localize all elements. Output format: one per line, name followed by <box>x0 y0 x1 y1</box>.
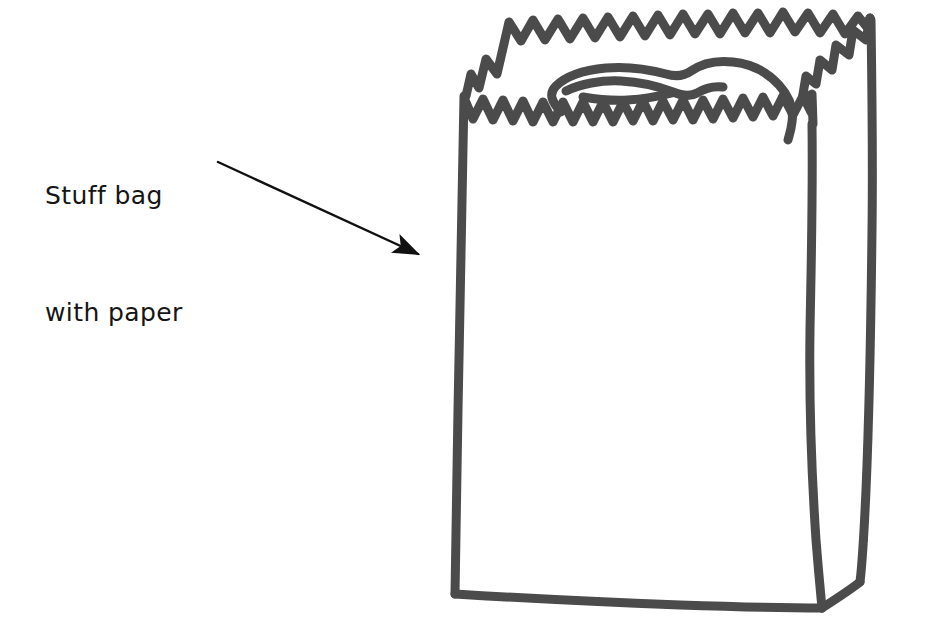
drawing-canvas: Stuff bag with paper <box>0 0 932 628</box>
pointer-arrow <box>218 162 418 254</box>
bag-front-left-edge <box>455 96 464 594</box>
crumpled-paper-inner-fold <box>566 81 723 96</box>
annotation-line-2: with paper <box>45 293 183 332</box>
stuff-bag-with-paper-label: Stuff bag with paper <box>45 98 183 410</box>
bag-bottom-edge <box>455 594 822 608</box>
bag-front-right-edge <box>810 124 822 608</box>
crumpled-paper-lower-fold <box>583 93 672 100</box>
paper-bag-drawing <box>455 12 872 608</box>
annotation-line-1: Stuff bag <box>45 176 183 215</box>
bag-side-outer-edge <box>860 20 872 582</box>
pointer-arrow-shaft <box>218 162 418 254</box>
bag-side-bottom-edge <box>822 582 860 608</box>
